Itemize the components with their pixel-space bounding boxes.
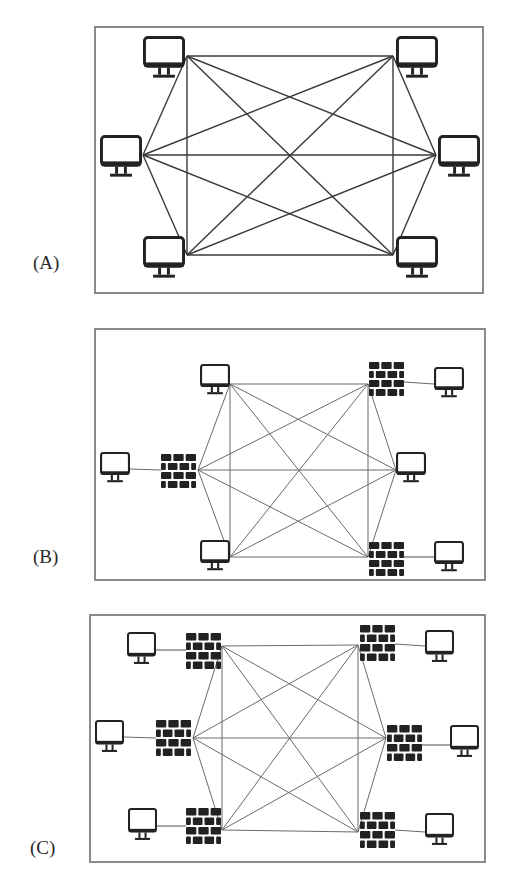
mesh-link bbox=[222, 830, 358, 832]
right-computer-icon bbox=[439, 136, 478, 176]
bottom-left-computer-icon bbox=[201, 541, 229, 570]
mesh-link bbox=[187, 56, 436, 155]
bottom-left-computer-icon bbox=[144, 237, 183, 277]
firewall-link bbox=[404, 382, 434, 384]
top-left-computer-icon bbox=[201, 365, 229, 394]
top-right-firewall-icon bbox=[360, 625, 395, 661]
mesh-links bbox=[193, 645, 386, 832]
outer-right-computer-icon bbox=[451, 726, 478, 757]
mesh-links bbox=[143, 56, 436, 255]
mesh-link bbox=[230, 384, 396, 470]
right-firewall-icon bbox=[387, 725, 422, 761]
network-topology-figure bbox=[0, 0, 517, 895]
outer-bottom-right-computer-icon bbox=[426, 814, 453, 845]
outer-bottom-left-computer-icon bbox=[129, 809, 156, 840]
firewall-link bbox=[395, 830, 425, 832]
left-firewall-icon bbox=[161, 454, 196, 488]
panel-label-c: (C) bbox=[30, 837, 55, 859]
outer-top-left-computer-icon bbox=[128, 633, 155, 664]
outer-left-computer-icon bbox=[96, 721, 123, 752]
left-firewall-icon bbox=[156, 720, 191, 756]
left-computer-icon bbox=[101, 136, 140, 176]
bottom-left-firewall-icon bbox=[186, 808, 221, 844]
mesh-link bbox=[198, 384, 230, 470]
outer-top-right-computer-icon bbox=[435, 368, 463, 397]
outer-bottom-right-computer-icon bbox=[435, 542, 463, 571]
firewall-link bbox=[395, 644, 425, 646]
mesh-link bbox=[368, 384, 396, 470]
top-left-computer-icon bbox=[144, 37, 183, 77]
mesh-link bbox=[222, 645, 358, 646]
bottom-right-computer-icon bbox=[397, 237, 436, 277]
right-computer-icon bbox=[397, 453, 425, 482]
bottom-right-firewall-icon bbox=[369, 542, 404, 576]
mesh-link bbox=[198, 384, 368, 470]
bottom-right-firewall-icon bbox=[360, 812, 395, 848]
top-left-firewall-icon bbox=[186, 633, 221, 669]
mesh-link bbox=[222, 646, 358, 832]
mesh-links bbox=[198, 384, 396, 557]
outer-left-computer-icon bbox=[101, 453, 129, 482]
firewall-link bbox=[129, 469, 161, 470]
panel-frame bbox=[95, 329, 485, 580]
panel-b-partial-firewall-mesh bbox=[95, 329, 485, 580]
panel-label-a: (A) bbox=[33, 252, 59, 274]
outer-top-right-computer-icon bbox=[426, 631, 453, 662]
panel-c-full-firewall-mesh bbox=[90, 615, 485, 862]
panel-a-full-mesh bbox=[95, 27, 483, 293]
firewall-link bbox=[124, 737, 156, 738]
top-right-firewall-icon bbox=[369, 362, 404, 396]
top-right-computer-icon bbox=[397, 37, 436, 77]
panel-label-b: (B) bbox=[33, 546, 58, 568]
